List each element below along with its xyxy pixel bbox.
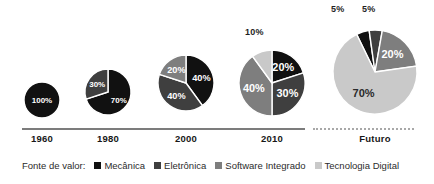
- year-label-2010[interactable]: 2010: [242, 133, 302, 144]
- legend-label: Tecnologia Digital: [325, 160, 399, 171]
- year-label-1980[interactable]: 1980: [78, 133, 138, 144]
- timeline-axis-solid: [22, 128, 305, 130]
- legend-swatch-icon-eletrônica: [154, 162, 161, 169]
- pie-label-2010-eletrônica: 30%: [277, 87, 299, 99]
- legend-item-eletrônica[interactable]: Eletrônica: [154, 160, 206, 171]
- chart-legend: Fonte de valor: MecânicaEletrônicaSoftwa…: [22, 157, 422, 173]
- chart-canvas: 100%70%30%40%40%20%20%30%40%20%70%10%5%5…: [0, 0, 434, 184]
- pie-label-2000-mecânica: 40%: [192, 73, 210, 83]
- pie-chart-1980[interactable]: 70%30%: [82, 66, 134, 118]
- callout-futuro-eletronica: 5%: [362, 4, 375, 14]
- pie-label-2010-software-integrado: 40%: [243, 82, 265, 94]
- legend-label: Eletrônica: [164, 160, 206, 171]
- year-label-1960[interactable]: 1960: [12, 133, 72, 144]
- legend-title: Fonte de valor:: [22, 160, 85, 171]
- legend-item-mecânica[interactable]: Mecânica: [94, 160, 145, 171]
- timeline-year-labels: 1960198020002010Futuro: [0, 133, 434, 149]
- legend-swatch-icon-software-integrado: [215, 162, 222, 169]
- pie-label-2000-eletrônica: 40%: [167, 91, 185, 101]
- pie-label-futuro-software-integrado: 20%: [382, 48, 404, 60]
- pie-label-2010-mecânica: 20%: [272, 61, 294, 73]
- pie-label-futuro-tecnologia-digital: 70%: [353, 87, 375, 99]
- legend-swatch-icon-tecnologia-digital: [315, 162, 322, 169]
- legend-item-tecnologia-digital[interactable]: Tecnologia Digital: [315, 160, 399, 171]
- callout-futuro-mecanica: 5%: [331, 4, 344, 14]
- timeline-axis: [22, 128, 414, 130]
- legend-item-software-integrado[interactable]: Software Integrado: [215, 160, 305, 171]
- pie-label-1960-mecânica: 100%: [32, 96, 52, 105]
- legend-label: Software Integrado: [225, 160, 305, 171]
- pie-chart-2010[interactable]: 20%30%40%: [236, 47, 308, 119]
- pie-chart-futuro[interactable]: 20%70%: [330, 27, 420, 117]
- pie-chart-2000[interactable]: 40%40%20%: [155, 52, 217, 114]
- pie-label-1980-eletrônica: 30%: [89, 80, 105, 89]
- timeline-axis-dotted: [313, 128, 414, 130]
- legend-swatch-icon-mecânica: [94, 162, 101, 169]
- callout-2010-tecnologia-digital: 10%: [245, 27, 264, 37]
- pie-chart-1960[interactable]: 100%: [21, 79, 63, 121]
- pie-label-1980-mecânica: 70%: [111, 96, 127, 105]
- year-label-2000[interactable]: 2000: [156, 133, 216, 144]
- year-label-futuro[interactable]: Futuro: [345, 133, 405, 144]
- pie-label-2000-software-integrado: 20%: [167, 65, 185, 75]
- legend-label: Mecânica: [104, 160, 145, 171]
- pie-chart-row: 100%70%30%40%40%20%20%30%40%20%70%10%5%5…: [0, 0, 434, 128]
